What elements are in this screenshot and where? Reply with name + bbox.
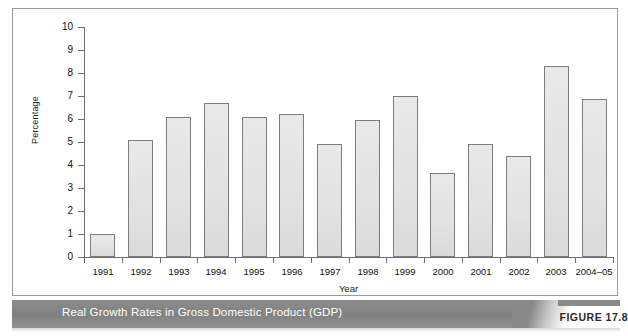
y-axis-tick <box>78 188 85 189</box>
y-axis-title: Percentage <box>30 60 40 180</box>
x-axis-tick <box>424 257 425 263</box>
y-axis-tick-label: 8 <box>43 68 73 78</box>
x-axis-tick-label: 1991 <box>84 267 122 277</box>
figure-caption-band: Real Growth Rates in Gross Domestic Prod… <box>12 300 626 328</box>
bar-2004-05 <box>582 99 607 257</box>
x-axis-tick-label: 1993 <box>160 267 198 277</box>
y-axis-tick-label: 3 <box>43 183 73 193</box>
y-axis-tick-label: 7 <box>43 91 73 101</box>
x-axis-tick-label: 2002 <box>500 267 538 277</box>
bar-1992 <box>128 140 153 257</box>
bar-1996 <box>279 114 304 257</box>
y-axis-tick <box>78 234 85 235</box>
x-axis-tick <box>273 257 274 263</box>
x-axis-tick-label: 1992 <box>122 267 160 277</box>
figure-number-label: FIGURE 17.8 <box>542 311 628 323</box>
bar-1998 <box>355 120 380 257</box>
y-axis-tick <box>78 50 85 51</box>
bar-1997 <box>317 144 342 257</box>
chart-frame: Percentage 012345678910 1991199219931994… <box>12 8 618 296</box>
x-axis-tick <box>537 257 538 263</box>
y-axis-tick <box>78 73 85 74</box>
bar-1995 <box>242 117 267 257</box>
y-axis-tick-label: 2 <box>43 206 73 216</box>
x-axis-tick-label: 2000 <box>424 267 462 277</box>
x-axis-tick <box>613 257 614 263</box>
x-axis-tick <box>84 257 85 263</box>
y-axis-tick-label: 6 <box>43 114 73 124</box>
x-axis-tick <box>160 257 161 263</box>
y-axis-tick-label: 10 <box>43 22 73 32</box>
x-axis-tick <box>197 257 198 263</box>
y-axis-tick-label: 4 <box>43 160 73 170</box>
x-axis-tick <box>462 257 463 263</box>
x-axis-tick-label: 2001 <box>462 267 500 277</box>
y-axis-tick <box>78 96 85 97</box>
figure-caption-text: Real Growth Rates in Gross Domestic Prod… <box>62 306 342 318</box>
bar-1999 <box>393 96 418 257</box>
bar-1991 <box>90 234 115 257</box>
x-axis-tick-label: 2003 <box>537 267 575 277</box>
chart-plot-area: Percentage 012345678910 1991199219931994… <box>13 9 619 297</box>
y-axis-tick-label: 1 <box>43 229 73 239</box>
bar-2003 <box>544 66 569 257</box>
y-axis-tick-label: 0 <box>43 252 73 262</box>
y-axis-tick-label: 9 <box>43 45 73 55</box>
y-axis-tick <box>78 165 85 166</box>
y-axis-tick <box>78 27 85 28</box>
x-axis-tick-label: 1997 <box>311 267 349 277</box>
y-axis-tick <box>78 211 85 212</box>
x-axis-tick <box>235 257 236 263</box>
x-axis-tick <box>500 257 501 263</box>
x-axis-tick-label: 2004–05 <box>575 267 613 277</box>
figure-label-tab <box>558 300 620 306</box>
page-top-edge <box>0 0 626 4</box>
y-axis-tick-label: 5 <box>43 137 73 147</box>
bar-2000 <box>430 173 455 257</box>
x-axis-tick-label: 1994 <box>197 267 235 277</box>
x-axis-tick-label: 1995 <box>235 267 273 277</box>
x-axis-tick-label: 1998 <box>349 267 387 277</box>
page-bottom-shadow <box>12 328 620 332</box>
y-axis-tick <box>78 142 85 143</box>
bar-2002 <box>506 156 531 257</box>
x-axis-tick <box>386 257 387 263</box>
x-axis-tick <box>311 257 312 263</box>
y-axis-tick <box>78 119 85 120</box>
x-axis-tick <box>122 257 123 263</box>
bar-1993 <box>166 117 191 257</box>
x-axis-tick-label: 1999 <box>386 267 424 277</box>
x-axis-tick-label: 1996 <box>273 267 311 277</box>
x-axis-tick <box>575 257 576 263</box>
x-axis-title: Year <box>84 283 613 294</box>
bar-2001 <box>468 144 493 257</box>
x-axis-tick <box>349 257 350 263</box>
bar-1994 <box>204 103 229 257</box>
